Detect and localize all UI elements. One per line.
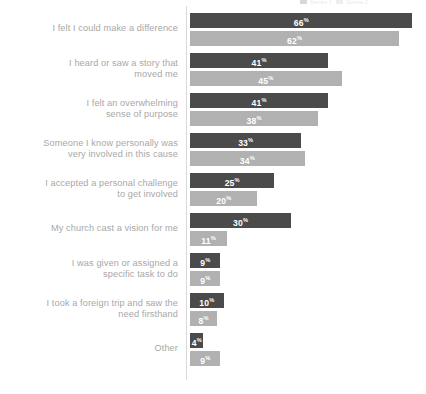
bar-value-label: 34% xyxy=(190,151,305,166)
percent-sign: % xyxy=(205,257,210,263)
bar-value-label: 33% xyxy=(190,133,301,148)
category-label-line: to get involved xyxy=(0,189,178,201)
percent-sign: % xyxy=(211,235,216,241)
percent-sign: % xyxy=(257,115,262,121)
bar-pair: 41%38% xyxy=(190,93,328,126)
bar-pair: 4%9% xyxy=(190,333,220,366)
bar: 9% xyxy=(190,253,220,268)
percent-sign: % xyxy=(203,315,208,321)
percent-sign: % xyxy=(226,195,231,201)
bar: 10% xyxy=(190,293,224,308)
percent-sign: % xyxy=(297,35,302,41)
percent-sign: % xyxy=(235,177,240,183)
bar-value-label: 38% xyxy=(190,111,318,126)
bar-value-label: 9% xyxy=(190,253,220,268)
category-label: My church cast a vision for me xyxy=(0,223,178,235)
bar-value-label: 9% xyxy=(190,351,220,366)
bar-pair: 9%9% xyxy=(190,253,220,286)
category-label: I felt I could make a difference xyxy=(0,23,178,35)
percent-sign: % xyxy=(268,75,273,81)
plot-area: I felt I could make a difference66%62%I … xyxy=(0,0,426,394)
percent-sign: % xyxy=(197,337,202,343)
percent-sign: % xyxy=(262,57,267,63)
bar-value-label: 10% xyxy=(190,293,224,308)
bar-pair: 66%62% xyxy=(190,13,412,46)
bar: 25% xyxy=(190,173,274,188)
category-label-line: specific task to do xyxy=(0,269,178,281)
percent-sign: % xyxy=(248,137,253,143)
category-label-line: I heard or saw a story that xyxy=(0,58,178,70)
category-label-line: need firsthand xyxy=(0,309,178,321)
bar-value-label: 41% xyxy=(190,93,328,108)
bar-value-label: 8% xyxy=(190,311,217,326)
category-label-line: very involved in this cause xyxy=(0,149,178,161)
bar: 8% xyxy=(190,311,217,326)
bar-value-label: 45% xyxy=(190,71,342,86)
bar: 9% xyxy=(190,351,220,366)
bar: 34% xyxy=(190,151,305,166)
category-label-line: My church cast a vision for me xyxy=(0,223,178,235)
bar: 38% xyxy=(190,111,318,126)
bar-pair: 30%11% xyxy=(190,213,291,246)
percent-sign: % xyxy=(209,297,214,303)
percent-sign: % xyxy=(243,217,248,223)
category-label: I took a foreign trip and saw theneed fi… xyxy=(0,298,178,321)
bar-pair: 41%45% xyxy=(190,53,342,86)
bar-pair: 33%34% xyxy=(190,133,305,166)
percent-sign: % xyxy=(250,155,255,161)
bar: 45% xyxy=(190,71,342,86)
bar-value-label: 20% xyxy=(190,191,257,206)
horizontal-bar-chart: Series 1 Series 2 I felt I could make a … xyxy=(0,0,426,394)
bar-value-label: 4% xyxy=(190,333,203,348)
bar-value-label: 9% xyxy=(190,271,220,286)
category-label-line: Other xyxy=(0,343,178,355)
bar-value-label: 41% xyxy=(190,53,328,68)
category-label: I heard or saw a story thatmoved me xyxy=(0,58,178,81)
category-label-line: moved me xyxy=(0,69,178,81)
bar-value-label: 66% xyxy=(190,13,412,28)
bar: 20% xyxy=(190,191,257,206)
category-label-line: I was given or assigned a xyxy=(0,258,178,270)
category-label-line: I felt I could make a difference xyxy=(0,23,178,35)
bar: 41% xyxy=(190,93,328,108)
bar-value-label: 62% xyxy=(190,31,399,46)
bar: 66% xyxy=(190,13,412,28)
category-label: I accepted a personal challengeto get in… xyxy=(0,178,178,201)
bar-value-label: 25% xyxy=(190,173,274,188)
category-label-line: sense of purpose xyxy=(0,109,178,121)
bar: 9% xyxy=(190,271,220,286)
bar: 41% xyxy=(190,53,328,68)
percent-sign: % xyxy=(262,97,267,103)
bar: 62% xyxy=(190,31,399,46)
bar: 4% xyxy=(190,333,203,348)
category-label: I felt an overwhelmingsense of purpose xyxy=(0,98,178,121)
category-label-line: I took a foreign trip and saw the xyxy=(0,298,178,310)
bar-value-label: 30% xyxy=(190,213,291,228)
bar-pair: 10%8% xyxy=(190,293,224,326)
bar: 11% xyxy=(190,231,227,246)
category-label: I was given or assigned aspecific task t… xyxy=(0,258,178,281)
bar-value-label: 11% xyxy=(190,231,227,246)
bar-pair: 25%20% xyxy=(190,173,274,206)
category-label-line: I accepted a personal challenge xyxy=(0,178,178,190)
percent-sign: % xyxy=(304,17,309,23)
percent-sign: % xyxy=(205,275,210,281)
bar: 33% xyxy=(190,133,301,148)
category-label: Other xyxy=(0,343,178,355)
category-label: Someone I know personally wasvery involv… xyxy=(0,138,178,161)
category-label-line: I felt an overwhelming xyxy=(0,98,178,110)
category-label-line: Someone I know personally was xyxy=(0,138,178,150)
bar: 30% xyxy=(190,213,291,228)
percent-sign: % xyxy=(205,355,210,361)
